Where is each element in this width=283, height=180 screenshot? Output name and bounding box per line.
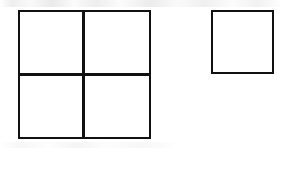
large-square-cell-top-right: [83, 11, 150, 74]
large-square-cell-bottom-right: [83, 74, 150, 138]
large-square-cell-bottom-left: [19, 74, 83, 138]
large-square-group: [19, 11, 150, 138]
large-square-cell-top-left: [19, 11, 83, 74]
square-diagram: [0, 0, 283, 180]
small-square-group: [212, 11, 273, 73]
diagram-canvas: [0, 0, 283, 180]
small-square-cell-single: [212, 11, 273, 73]
